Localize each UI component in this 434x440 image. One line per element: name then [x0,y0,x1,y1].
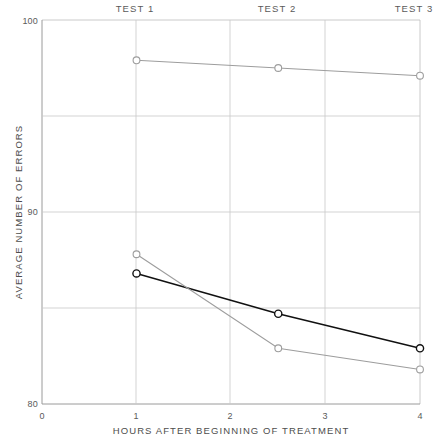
y-axis-title: AVERAGE NUMBER OF ERRORS [13,125,24,300]
data-point-lower-grey-1 [275,345,282,352]
data-point-upper-0 [133,57,140,64]
horizontal-gridlines [42,116,420,308]
chart-container: TEST 1 TEST 2 TEST 3 100 90 [0,0,434,440]
data-point-upper-1 [275,65,282,72]
annotation-test-3: TEST 3 [395,3,434,14]
y-tick-90: 90 [28,207,38,217]
series-middle-dark [133,270,424,352]
x-tick-4: 4 [417,411,422,421]
data-point-lower-grey-2 [417,366,424,373]
x-tick-3: 3 [322,411,327,421]
x-tick-0: 0 [39,411,44,421]
series-layer [133,57,424,373]
series-upper [133,57,423,79]
data-point-lower-grey-0 [133,251,140,258]
data-point-middle-dark-0 [133,270,140,277]
y-tick-80: 80 [28,399,38,409]
x-tick-1: 1 [133,411,138,421]
data-point-middle-dark-1 [275,310,282,317]
annotation-test-1: TEST 1 [116,3,155,14]
x-axis-title: HOURS AFTER BEGINNING OF TREATMENT [113,425,350,436]
y-tick-100: 100 [22,16,38,26]
data-point-middle-dark-2 [416,345,423,352]
annotation-test-2: TEST 2 [258,3,297,14]
data-point-upper-2 [417,72,424,79]
x-tick-2: 2 [227,411,232,421]
line-chart: TEST 1 TEST 2 TEST 3 100 90 [0,0,434,440]
